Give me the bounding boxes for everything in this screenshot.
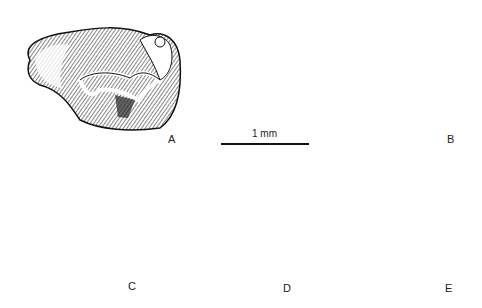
tooth-specimen-a [28,28,180,130]
panel-label-c: C [128,280,136,292]
panel-label-b: B [447,133,454,145]
panel-label-e: E [445,282,452,294]
scale-bar [221,143,309,145]
panel-label-a: A [168,133,175,145]
figure-canvas [0,0,482,308]
scale-bar-label: 1 mm [252,128,277,139]
panel-label-d: D [283,282,291,294]
